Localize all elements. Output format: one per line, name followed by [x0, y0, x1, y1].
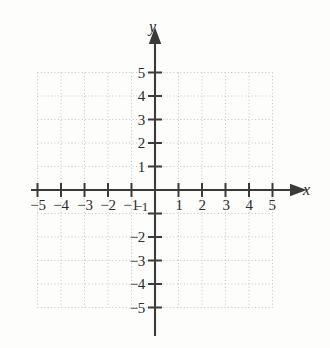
y-tick-label-2: 2: [138, 136, 145, 151]
x-tick-label-1: 1: [175, 198, 182, 213]
y-tick-label-5: 5: [138, 65, 145, 80]
x-tick-label-5: 5: [268, 198, 275, 213]
plot-canvas: [0, 0, 330, 348]
x-axis-label: x: [303, 182, 310, 198]
x-tick-label-3: 3: [222, 198, 229, 213]
y-tick-label--4: −4: [130, 277, 145, 292]
x-tick-label--3: −3: [77, 198, 92, 213]
y-tick-label--2: −2: [130, 230, 145, 245]
x-tick-label-4: 4: [245, 198, 252, 213]
y-tick-label--1: −1: [135, 200, 148, 213]
y-tick-label-4: 4: [138, 89, 145, 104]
y-axis-label: y: [149, 19, 156, 35]
y-tick-label--3: −3: [130, 253, 145, 268]
x-tick-label--4: −4: [53, 198, 68, 213]
x-tick-label-2: 2: [198, 198, 205, 213]
coordinate-plane-figure: −5 −4 −3 −2 −1 1 2 3 4 5 5 4 3 2 1 −1 −2…: [0, 0, 330, 348]
x-tick-label--5: −5: [30, 198, 45, 213]
x-tick-label--2: −2: [100, 198, 115, 213]
y-tick-label--5: −5: [130, 300, 145, 315]
y-tick-label-3: 3: [138, 112, 145, 127]
y-tick-label-1: 1: [138, 159, 145, 174]
